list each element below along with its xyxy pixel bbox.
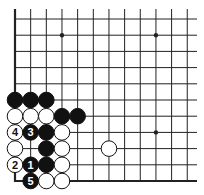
stone-disc <box>54 108 70 124</box>
black-stone <box>70 108 86 124</box>
white-stone <box>54 157 70 173</box>
black-stone <box>39 141 55 157</box>
white-stone <box>39 108 55 124</box>
stone-disc <box>39 125 55 141</box>
stone-disc <box>54 125 70 141</box>
white-stone <box>101 141 117 157</box>
move-number: 2 <box>12 159 18 171</box>
stone-disc <box>39 157 55 173</box>
stone-disc <box>39 92 55 108</box>
stone-disc <box>70 108 86 124</box>
black-stone <box>39 92 55 108</box>
stone-disc <box>23 108 39 124</box>
move-number: 3 <box>28 126 34 138</box>
star-point <box>60 33 64 37</box>
black-stone <box>39 157 55 173</box>
white-stone <box>7 141 23 157</box>
stone-disc <box>39 141 55 157</box>
white-stone <box>39 173 55 189</box>
stone-disc <box>101 141 117 157</box>
stone-disc <box>39 108 55 124</box>
move-number: 5 <box>28 175 34 187</box>
black-stone <box>54 108 70 124</box>
white-stone-4: 4 <box>7 125 23 141</box>
white-stone <box>54 141 70 157</box>
stone-disc <box>7 141 23 157</box>
move-number: 1 <box>28 159 34 171</box>
black-stone-1: 1 <box>23 157 39 173</box>
black-stone <box>23 92 39 108</box>
star-point <box>154 130 158 134</box>
white-stone <box>7 108 23 124</box>
stone-disc <box>7 92 23 108</box>
stone-disc <box>54 157 70 173</box>
white-stone-2: 2 <box>7 157 23 173</box>
stone-disc <box>54 173 70 189</box>
move-number: 4 <box>12 126 19 138</box>
stone-disc <box>39 173 55 189</box>
black-stone <box>7 92 23 108</box>
white-stone <box>54 125 70 141</box>
stone-disc <box>54 141 70 157</box>
white-stone <box>23 108 39 124</box>
star-point <box>154 33 158 37</box>
white-stone <box>54 173 70 189</box>
go-board: 43215 <box>0 0 204 195</box>
stone-disc <box>7 108 23 124</box>
black-stone-3: 3 <box>23 125 39 141</box>
black-stone <box>39 125 55 141</box>
stone-disc <box>23 92 39 108</box>
black-stone-5: 5 <box>23 173 39 189</box>
